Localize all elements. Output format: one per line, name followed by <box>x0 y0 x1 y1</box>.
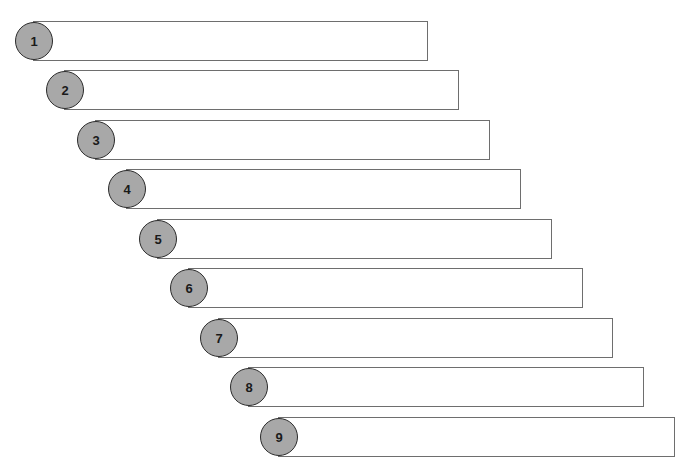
step-bar <box>278 417 675 457</box>
step-row-5: 5 <box>139 219 552 259</box>
step-row-7: 7 <box>200 318 613 358</box>
step-number-badge: 3 <box>77 121 115 159</box>
step-row-6: 6 <box>170 268 583 308</box>
step-row-1: 1 <box>15 21 428 61</box>
step-bar <box>188 268 583 308</box>
step-bar <box>64 70 459 110</box>
step-number-badge: 5 <box>139 220 177 258</box>
step-row-9: 9 <box>260 417 675 457</box>
step-number-badge: 1 <box>15 22 53 60</box>
step-bar <box>126 169 521 209</box>
step-row-8: 8 <box>230 367 644 407</box>
step-bar <box>218 318 613 358</box>
step-row-3: 3 <box>77 120 490 160</box>
step-number-badge: 9 <box>260 418 298 456</box>
step-bar <box>157 219 552 259</box>
step-number-badge: 8 <box>230 368 268 406</box>
step-bar <box>33 21 428 61</box>
step-bar <box>248 367 644 407</box>
step-number-badge: 6 <box>170 269 208 307</box>
step-row-4: 4 <box>108 169 521 209</box>
step-bar <box>95 120 490 160</box>
step-number-badge: 4 <box>108 170 146 208</box>
step-number-badge: 7 <box>200 319 238 357</box>
step-row-2: 2 <box>46 70 459 110</box>
step-number-badge: 2 <box>46 71 84 109</box>
